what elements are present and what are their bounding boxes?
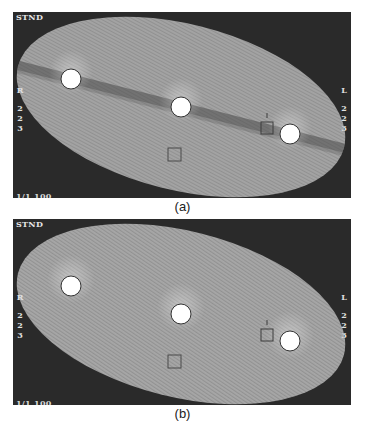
series-label: STND <box>16 12 43 22</box>
insert-center <box>171 304 191 324</box>
digit: 2 <box>15 320 25 330</box>
digit: 3 <box>15 123 25 133</box>
image-index-label: 1/1 100 <box>16 191 52 198</box>
digit: 3 <box>339 330 349 340</box>
caption-a: (a) <box>0 199 365 214</box>
caption-b: (b) <box>0 406 365 421</box>
phantom-image-b <box>13 219 351 405</box>
digit: 2 <box>15 113 25 123</box>
insert-left <box>61 69 81 89</box>
left-orientation-marker: R 2 2 3 <box>15 292 25 340</box>
insert-left <box>61 276 81 296</box>
ct-image-panel-a: STND R 2 2 3 L 2 2 3 1/1 100 <box>13 12 351 198</box>
orientation-letter: L <box>339 292 349 302</box>
series-label: STND <box>16 219 43 229</box>
ct-image-panel-b: STND R 2 2 3 L 2 2 3 1/1 100 <box>13 219 351 405</box>
left-orientation-marker: R 2 2 3 <box>15 85 25 133</box>
phantom-image-a <box>13 12 351 198</box>
digit: 2 <box>15 310 25 320</box>
insert-right <box>280 331 300 351</box>
digit: 2 <box>339 113 349 123</box>
digit: 3 <box>15 330 25 340</box>
digit: 2 <box>15 103 25 113</box>
insert-center <box>171 97 191 117</box>
image-index-label: 1/1 100 <box>16 398 52 405</box>
digit: 2 <box>339 310 349 320</box>
orientation-letter: R <box>15 85 25 95</box>
orientation-letter: R <box>15 292 25 302</box>
orientation-letter: L <box>339 85 349 95</box>
insert-right <box>280 124 300 144</box>
digit: 2 <box>339 103 349 113</box>
right-orientation-marker: L 2 2 3 <box>339 292 349 340</box>
right-orientation-marker: L 2 2 3 <box>339 85 349 133</box>
digit: 2 <box>339 320 349 330</box>
digit: 3 <box>339 123 349 133</box>
